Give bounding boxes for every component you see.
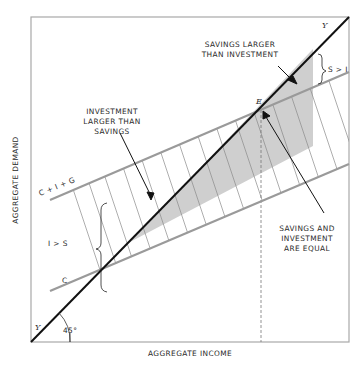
svg-text:THAN INVESTMENT: THAN INVESTMENT (201, 50, 279, 59)
y-label-top: Y (322, 21, 328, 30)
svg-text:LARGER THAN: LARGER THAN (83, 117, 140, 126)
point-e-label: E (255, 97, 262, 106)
i-gt-s-brace (96, 203, 107, 292)
svg-text:SAVINGS: SAVINGS (94, 127, 129, 136)
s-gt-i-brace (318, 54, 326, 84)
s-gt-i-label: S > I (328, 65, 348, 74)
equal-annotation: SAVINGS AND INVESTMENT ARE EQUAL (279, 224, 335, 253)
savings-larger-annotation: SAVINGS LARGER THAN INVESTMENT (201, 40, 279, 59)
cig-label: C + I + G (37, 175, 76, 198)
svg-text:INVESTMENT: INVESTMENT (86, 107, 138, 116)
aggregate-demand-diagram: Y Y 45° E C + I + G C I > S S > I INVEST… (0, 0, 364, 369)
svg-text:SAVINGS LARGER: SAVINGS LARGER (205, 40, 276, 49)
c-label: C (62, 276, 68, 285)
svg-text:SAVINGS AND: SAVINGS AND (279, 224, 335, 233)
y-axis-label: AGGREGATE DEMAND (11, 136, 20, 223)
y-label-bottom: Y (35, 323, 41, 332)
angle-label: 45° (63, 326, 77, 335)
investment-larger-annotation: INVESTMENT LARGER THAN SAVINGS (83, 107, 140, 136)
svg-text:ARE EQUAL: ARE EQUAL (284, 244, 330, 253)
forty-five-line (31, 17, 349, 342)
x-axis-label: AGGREGATE INCOME (148, 349, 232, 358)
i-gt-s-label: I > S (48, 239, 68, 248)
svg-text:INVESTMENT: INVESTMENT (281, 234, 333, 243)
